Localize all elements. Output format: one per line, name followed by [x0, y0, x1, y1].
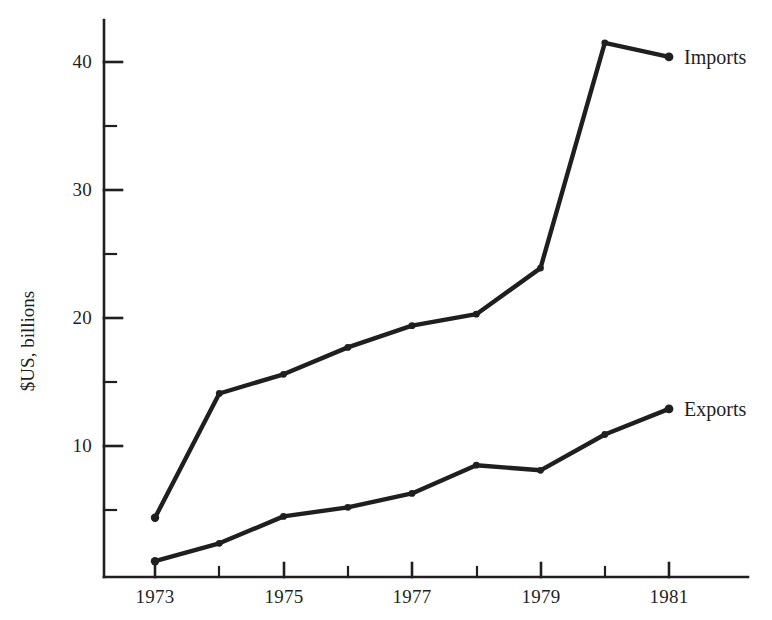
- y-axis-title: $US, billions: [17, 251, 39, 431]
- y-tick-label-40: 40: [40, 51, 92, 73]
- x-tick-label-1973: 1973: [110, 586, 200, 608]
- x-tick-label-1981: 1981: [624, 586, 714, 608]
- line-chart-figure: $US, billions 40 30 20 10 1973 1975 1977…: [0, 0, 772, 620]
- series-label-imports: Imports: [684, 46, 746, 69]
- y-tick-label-30: 30: [40, 179, 92, 201]
- series-markers-imports: [151, 39, 674, 522]
- y-tick-label-20: 20: [40, 307, 92, 329]
- x-tick-label-1977: 1977: [367, 586, 457, 608]
- x-tick-label-1975: 1975: [239, 586, 329, 608]
- series-line-exports: [155, 409, 669, 561]
- chart-plot-area: [0, 0, 772, 620]
- y-axis-ticks: [104, 62, 122, 510]
- x-tick-label-1979: 1979: [496, 586, 586, 608]
- series-line-imports: [155, 43, 669, 518]
- y-tick-label-10: 10: [40, 435, 92, 457]
- x-axis-ticks: [155, 563, 669, 577]
- series-label-exports: Exports: [684, 398, 746, 421]
